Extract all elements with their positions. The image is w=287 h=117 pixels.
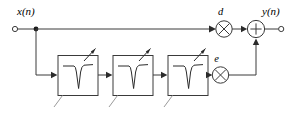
notch-filter-2[interactable] — [109, 49, 153, 108]
input-label: x(n) — [16, 5, 35, 18]
direct-path-group — [12, 26, 216, 33]
multiplier-e-label: e — [214, 53, 219, 64]
notch-filter-1-tick — [54, 96, 63, 108]
block-diagram-canvas: d y(n) x(n) — [0, 0, 287, 117]
branch-down-group — [36, 29, 57, 78]
output-terminal-circle[interactable] — [279, 26, 284, 31]
signal-arrow-icon-into-adder — [241, 26, 247, 32]
notch-filter-2-tick — [109, 96, 118, 108]
signal-arrow-icon-into-block2 — [106, 72, 112, 78]
input-terminal-circle[interactable] — [12, 26, 17, 31]
multiplier-e[interactable]: e — [212, 53, 228, 83]
notch-filter-1[interactable] — [54, 49, 98, 108]
signal-arrow-icon-into-d — [209, 26, 216, 33]
notch-filter-3[interactable] — [164, 49, 208, 108]
notch-filter-3-tick — [164, 96, 173, 108]
multiplier-d[interactable]: d — [216, 6, 232, 37]
signal-arrow-icon-into-adder-bottom — [253, 39, 259, 45]
signal-arrow-icon-into-block3 — [161, 72, 167, 78]
diagram-svg: d y(n) x(n) — [0, 0, 287, 117]
error-feedback-path — [229, 39, 260, 75]
signal-arrow-icon-into-e — [206, 72, 212, 78]
notch-filter-3-box[interactable] — [168, 56, 208, 96]
adder[interactable] — [247, 20, 264, 37]
notch-filter-1-box[interactable] — [58, 56, 98, 96]
output-label: y(n) — [261, 5, 280, 18]
multiplier-d-label: d — [218, 6, 224, 17]
notch-filter-2-box[interactable] — [113, 56, 153, 96]
signal-arrow-icon-into-block1 — [51, 72, 57, 78]
